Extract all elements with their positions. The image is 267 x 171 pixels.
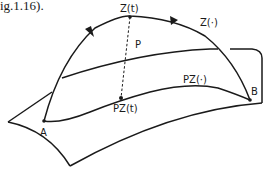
point-b	[248, 98, 252, 102]
label-pz-dot: PZ(·)	[183, 74, 207, 85]
arrow-icon	[85, 26, 94, 37]
label-b: B	[251, 86, 258, 97]
label-z-t: Z(t)	[120, 3, 139, 14]
label-z-dot: Z(·)	[200, 17, 218, 28]
point-a	[42, 119, 46, 123]
point-pz-t	[119, 96, 123, 100]
surface-edge-left-bottom	[8, 122, 70, 166]
label-pz-t: PZ(t)	[113, 103, 138, 114]
label-a: A	[40, 127, 47, 138]
space-curve	[44, 16, 250, 121]
projection-line	[121, 17, 130, 98]
surface-diagram: Z(t) Z(·) P PZ(t) PZ(·) A B	[0, 0, 267, 171]
point-z-t	[128, 15, 132, 19]
surface-edge-bottom	[70, 103, 262, 166]
projected-curve	[44, 86, 250, 122]
label-p: P	[135, 39, 141, 50]
